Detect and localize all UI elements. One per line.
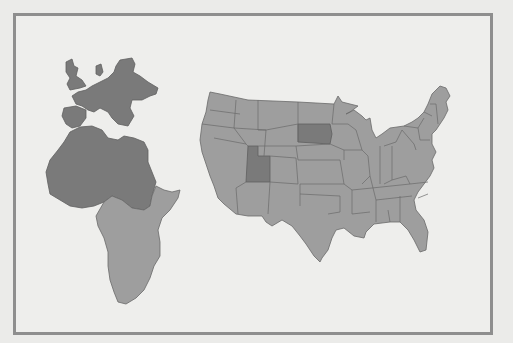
region-united-states [200,86,450,262]
region-europe [62,58,158,128]
region-north-africa [46,126,156,210]
map-canvas [0,0,513,343]
state-south-dakota [298,124,332,144]
